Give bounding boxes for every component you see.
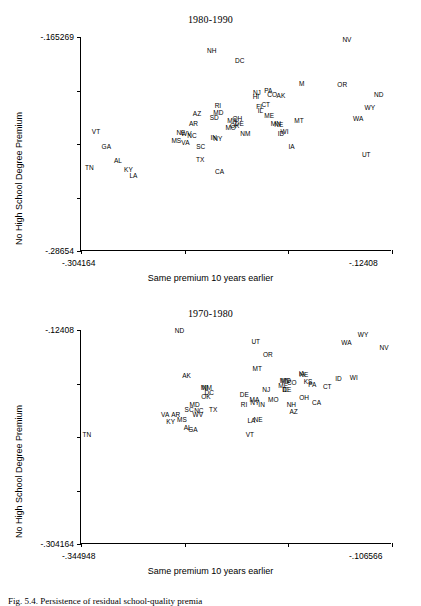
scatter-point-label: WA [353, 116, 363, 123]
y-axis-tick-label-min: -.28654 [8, 246, 74, 256]
scatter-point-label: IA [289, 144, 295, 151]
scatter-point-label: TN [85, 165, 94, 172]
scatter-point-label: CA [215, 169, 224, 176]
x-axis-tick [392, 543, 393, 547]
chart-panel-1980-1990: 1980-1990 No High School Degree Premium … [0, 0, 421, 296]
scatter-point-label: MO [268, 396, 278, 403]
plot-frame: NDWYUTWANVORMTIANEAKIDWIMNMDCOKSPAMECTMI… [80, 330, 391, 544]
scatter-point-label: DC [235, 58, 244, 65]
x-axis-tick-label-min: -.344948 [62, 551, 96, 561]
x-axis-title: Same premium 10 years earlier [0, 273, 421, 283]
chart-panel-1970-1980: 1970-1980 No High School Degree Premium … [0, 296, 421, 592]
x-axis-tick [392, 250, 393, 254]
y-axis-tick [77, 491, 81, 492]
plot-frame: NVNHDCORMPANJCOAKHINDCTFLILRIWYMDAZMESDW… [80, 37, 391, 251]
scatter-point-label: NE [176, 130, 185, 137]
chart-title: 1970-1980 [0, 308, 421, 319]
scatter-point-label: WY [358, 332, 368, 339]
scatter-point-label: AZ [193, 111, 201, 118]
scatter-point-label: NV [379, 345, 388, 352]
scatter-point-label: GA [188, 427, 197, 434]
scatter-point-label: KY [166, 419, 175, 426]
scatter-point-label: NJ [262, 386, 270, 393]
y-axis-tick [77, 198, 81, 199]
scatter-point-label: UT [362, 152, 371, 159]
scatter-point-label: CT [323, 384, 332, 391]
scatter-point-label: MO [225, 125, 235, 132]
scatter-point-label: OH [299, 395, 309, 402]
scatter-point-label: M [299, 81, 304, 88]
scatter-point-label: NV [342, 37, 351, 44]
scatter-point-label: NH [207, 48, 216, 55]
x-axis-tick [288, 250, 289, 254]
scatter-point-label: WI [350, 375, 358, 382]
x-axis-tick [81, 543, 82, 547]
scatter-point-label: DE [282, 387, 291, 394]
scatter-point-label: ND [175, 328, 184, 335]
scatter-point-label: MT [294, 118, 303, 125]
x-axis-tick [185, 543, 186, 547]
y-axis-tick-label-max: -.165269 [8, 32, 74, 42]
scatter-point-label: TX [209, 406, 217, 413]
scatter-point-label: WY [365, 104, 375, 111]
scatter-point-label: VA [181, 140, 189, 147]
scatter-point-label: WA [341, 340, 351, 347]
scatter-point-label: HI [253, 94, 260, 101]
scatter-point-label: AK [182, 372, 191, 379]
scatter-point-label: MS [171, 138, 181, 145]
x-axis-tick-label-min: -.304164 [62, 258, 96, 268]
plot-area: NDWYUTWANVORMTIANEAKIDWIMNMDCOKSPAMECTMI… [81, 330, 391, 543]
x-axis-tick [288, 543, 289, 547]
scatter-point-label: IL [258, 108, 263, 115]
scatter-point-label: DE [240, 392, 249, 399]
scatter-point-label: AZ [289, 409, 297, 416]
y-axis-tick-label-max: -.12408 [8, 325, 74, 335]
chart-title: 1980-1990 [0, 14, 421, 25]
scatter-point-label: CA [312, 400, 321, 407]
scatter-point-label: SD [210, 115, 219, 122]
scatter-point-label: RI [241, 402, 248, 409]
scatter-point-label: NC [187, 132, 196, 139]
scatter-point-label: OR [337, 82, 347, 89]
x-axis-tick [81, 250, 82, 254]
scatter-point-label: NY [213, 136, 222, 143]
scatter-point-label: AL [114, 158, 122, 165]
scatter-point-label: ME [264, 112, 274, 119]
scatter-point-label: MT [252, 366, 261, 373]
scatter-point-label: PA [308, 382, 316, 389]
x-axis-tick-label-max: -.106566 [349, 551, 383, 561]
scatter-point-label: NE [254, 417, 263, 424]
scatter-point-label: CO [267, 92, 277, 99]
scatter-point-label: WV [193, 412, 203, 419]
y-axis-tick [77, 91, 81, 92]
scatter-point-label: WI [281, 129, 289, 136]
scatter-point-label: ND [374, 92, 383, 99]
scatter-point-label: VT [246, 432, 254, 439]
y-axis-title: No High School Degree Premium [14, 112, 24, 245]
y-axis-tick [77, 384, 81, 385]
y-axis-tick [77, 37, 81, 38]
scatter-point-label: GA [102, 144, 111, 151]
scatter-point-label: NM [240, 130, 250, 137]
x-axis-tick-label-max: -.12408 [349, 258, 378, 268]
plot-area: NVNHDCORMPANJCOAKHINDCTFLILRIWYMDAZMESDW… [81, 37, 391, 250]
scatter-point-label: AK [277, 93, 286, 100]
scatter-point-label: LA [129, 173, 137, 180]
x-axis-tick [185, 250, 186, 254]
x-axis-title: Same premium 10 years earlier [0, 566, 421, 576]
scatter-point-label: SC [196, 144, 205, 151]
scatter-point-label: ID [335, 376, 342, 383]
y-axis-tick [77, 144, 81, 145]
y-axis-title: No High School Degree Premium [14, 405, 24, 538]
y-axis-tick [77, 437, 81, 438]
scatter-point-label: MS [177, 416, 187, 423]
scatter-point-label: OK [201, 394, 210, 401]
scatter-point-label: TN [82, 432, 91, 439]
y-axis-tick-label-min: -.304164 [8, 539, 74, 549]
scatter-point-label: IN [258, 402, 265, 409]
scatter-point-label: OR [263, 352, 273, 359]
y-axis-tick [77, 330, 81, 331]
scatter-point-label: AR [189, 121, 198, 128]
figure-caption: Fig. 5.4. Persistence of residual school… [8, 596, 421, 606]
